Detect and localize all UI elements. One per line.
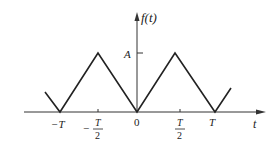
x-axis-label: t — [253, 117, 257, 131]
tick-label-neg-T: −T — [51, 118, 65, 130]
y-axis-arrow-icon — [135, 12, 140, 21]
tick-label-half-T-den: 2 — [177, 130, 182, 141]
triangle-waveform — [45, 53, 231, 112]
plot-canvas: f(t) A −T − T 2 0 T 2 T t — [0, 0, 274, 147]
tick-label-half-T-num: T — [177, 117, 184, 128]
tick-label-neg-half-T-num: T — [95, 117, 102, 128]
amplitude-label: A — [123, 48, 131, 60]
x-axis-arrow-icon — [256, 110, 266, 115]
tick-label-neg-half-T-sign: − — [83, 122, 89, 134]
tick-label-T: T — [209, 116, 216, 128]
y-axis-label: f(t) — [141, 10, 157, 25]
tick-label-neg-half-T-den: 2 — [95, 130, 100, 141]
tick-label-origin: 0 — [134, 116, 140, 128]
triangle-wave-figure: f(t) A −T − T 2 0 T 2 T t — [0, 0, 274, 147]
